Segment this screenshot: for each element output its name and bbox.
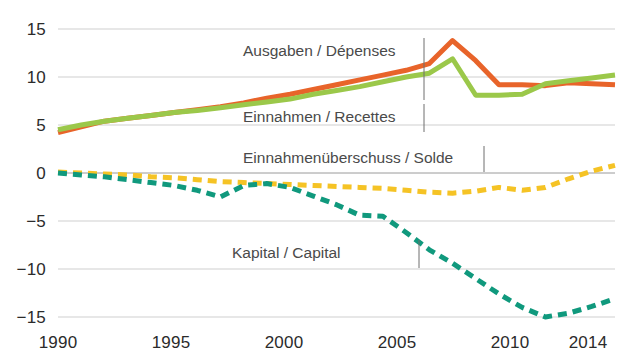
xtick-label-1990: 1990 bbox=[23, 334, 93, 352]
ytick-label-5: 5 bbox=[0, 117, 46, 134]
xtick-label-2014: 2014 bbox=[553, 334, 623, 352]
ytick-label-0: 0 bbox=[0, 165, 46, 182]
gridlines-group bbox=[58, 29, 615, 317]
xtick-label-2005: 2005 bbox=[362, 334, 432, 352]
xtick-label-2000: 2000 bbox=[249, 334, 319, 352]
series-label-ausgaben: Ausgaben / Dépenses bbox=[243, 43, 396, 59]
chart-container: 15 10 5 0 −5 −10 −15 1990 1995 2000 2005… bbox=[0, 0, 623, 363]
xtick-label-2010: 2010 bbox=[475, 334, 545, 352]
series-label-solde: Einnahmenüberschuss / Solde bbox=[243, 150, 453, 166]
xtick-label-1995: 1995 bbox=[136, 334, 206, 352]
ytick-label-neg5: −5 bbox=[0, 213, 46, 230]
ytick-label-neg10: −10 bbox=[0, 261, 46, 278]
ytick-label-10: 10 bbox=[0, 69, 46, 86]
ytick-label-neg15: −15 bbox=[0, 309, 46, 326]
series-label-kapital: Kapital / Capital bbox=[232, 245, 341, 261]
ytick-label-15: 15 bbox=[0, 21, 46, 38]
series-group bbox=[58, 41, 615, 317]
series-label-einnahmen: Einnahmen / Recettes bbox=[243, 109, 396, 125]
